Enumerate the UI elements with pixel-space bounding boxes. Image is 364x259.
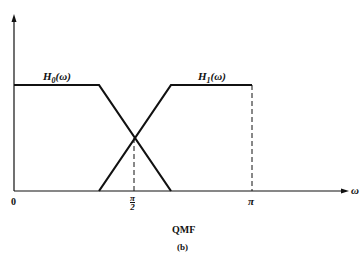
h0-curve bbox=[14, 85, 171, 191]
h1-label: H1(ω) bbox=[198, 70, 226, 85]
pi-tick-label: π bbox=[248, 195, 254, 207]
origin-label: 0 bbox=[11, 196, 16, 207]
y-axis-arrow-icon bbox=[12, 14, 17, 22]
diagram-title: QMF bbox=[172, 224, 195, 235]
h1-curve bbox=[99, 85, 252, 191]
qmf-diagram bbox=[0, 0, 364, 259]
h0-label: H0(ω) bbox=[43, 70, 71, 85]
diagram-subtitle: (b) bbox=[177, 242, 188, 252]
x-axis-label: ω bbox=[351, 184, 359, 196]
x-axis-arrow-icon bbox=[341, 189, 349, 194]
half-pi-tick-label: π 2 bbox=[130, 194, 135, 211]
